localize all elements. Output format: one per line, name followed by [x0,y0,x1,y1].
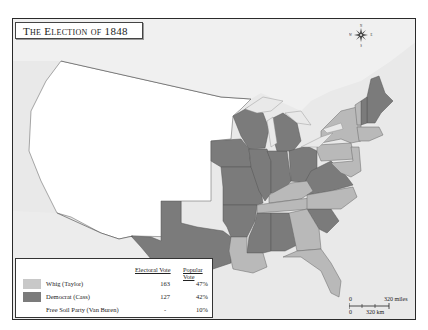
legend: Electoral Vote Popular Vote Whig (Taylor… [15,258,213,318]
legend-popular-vote: 47% [195,280,209,287]
map-title-box: The Election of 1848 [15,22,143,39]
democrat-swatch [23,292,41,302]
compass-rose-icon: N S E W [349,23,373,47]
legend-row-whig: Whig (Taylor) 163 47% [23,279,209,289]
legend-electoral-vote: - [158,306,172,313]
scale-zero-km: 0 [349,309,352,315]
compass-s: S [360,44,362,48]
legend-popular-vote: 10% [195,306,209,313]
legend-popular-vote: 42% [195,293,209,300]
legend-electoral-vote: 163 [158,280,172,287]
scale-bar: 0 320 miles 0 320 km [346,296,416,318]
legend-row-democrat: Democrat (Cass) 127 42% [23,292,209,302]
compass-e: E [371,33,373,37]
scale-km-label: 320 km [366,309,384,315]
map-title: The Election of 1848 [23,25,128,37]
whig-swatch [23,279,41,289]
legend-header-popular-vote: Popular Vote [183,266,212,280]
scale-zero-miles: 0 [349,296,352,302]
legend-party: Free Soil Party (Van Buren) [46,306,119,313]
legend-party: Whig (Taylor) [46,280,83,287]
legend-header-electoral-vote: Electoral Vote [135,266,171,273]
legend-party: Democrat (Cass) [46,293,90,300]
compass-n: N [360,24,363,28]
compass-w: W [349,33,352,37]
scale-miles-label: 320 miles [384,296,408,302]
legend-row-free-soil: Free Soil Party (Van Buren) - 10% [23,305,209,315]
legend-electoral-vote: 127 [158,293,172,300]
